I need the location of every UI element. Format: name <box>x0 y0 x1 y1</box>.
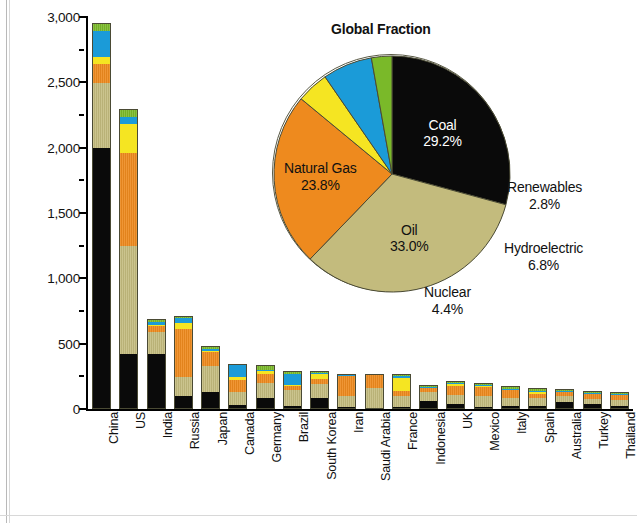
x-axis-tick-labels: ChinaUSIndiaRussiaJapanCanadaGermanyBraz… <box>88 412 633 512</box>
bar-spain[interactable] <box>528 388 547 409</box>
x-tick-label: China <box>107 412 121 444</box>
y-tick-major <box>79 212 86 214</box>
page-frame-left-line <box>6 0 7 523</box>
bar-iran[interactable] <box>337 374 356 409</box>
bar-uk[interactable] <box>446 381 465 409</box>
bar-segment-natural-gas <box>338 376 355 396</box>
x-tick-label: Australia <box>570 412 584 459</box>
bar-segment-coal <box>556 402 573 408</box>
bar-brazil[interactable] <box>283 371 302 409</box>
x-tick-label: Thailand <box>624 412 637 459</box>
bar-segment-natural-gas <box>175 329 192 377</box>
bar-segment-hydroelectric <box>93 31 110 58</box>
bar-segment-coal <box>202 392 219 408</box>
y-tick-minor <box>79 310 84 312</box>
y-tick-major <box>79 277 86 279</box>
x-tick-label: US <box>134 412 148 429</box>
bar-segment-hydroelectric <box>120 117 137 125</box>
bar-germany[interactable] <box>256 365 275 409</box>
bar-segment-oil <box>311 384 328 398</box>
y-tick-major <box>79 343 86 345</box>
bar-segment-nuclear <box>120 124 137 153</box>
bar-south-korea[interactable] <box>310 371 329 409</box>
pie-label-renewables: Renewables2.8% <box>507 179 582 212</box>
bar-segment-natural-gas <box>366 375 383 388</box>
pie-label-nuclear: Nuclear4.4% <box>424 284 471 317</box>
bar-turkey[interactable] <box>583 391 602 409</box>
x-tick-label: Russia <box>188 412 202 449</box>
x-tick-label: Indonesia <box>434 412 448 465</box>
bar-segment-coal <box>311 398 328 408</box>
y-tick-label: 1,000 <box>47 271 80 286</box>
bar-segment-coal <box>611 406 628 408</box>
x-tick-label: Germany <box>270 412 284 462</box>
bar-segment-natural-gas <box>202 352 219 366</box>
bar-india[interactable] <box>147 319 166 409</box>
bar-segment-coal <box>284 406 301 408</box>
bar-segment-oil <box>257 383 274 397</box>
bar-segment-nuclear <box>393 378 410 391</box>
bar-australia[interactable] <box>555 389 574 409</box>
bar-segment-oil <box>447 395 464 404</box>
bar-segment-oil <box>120 246 137 354</box>
y-tick-label: 0 <box>73 402 80 417</box>
bar-segment-oil <box>420 392 437 401</box>
pie-label-natural-gas: Natural Gas23.8% <box>284 160 357 193</box>
bar-russia[interactable] <box>174 316 193 409</box>
bar-segment-natural-gas <box>120 153 137 246</box>
y-tick-major <box>79 81 86 83</box>
bar-france[interactable] <box>392 374 411 409</box>
bar-segment-oil <box>338 396 355 407</box>
bar-segment-coal <box>447 404 464 408</box>
bar-segment-natural-gas <box>447 386 464 395</box>
bar-segment-oil <box>502 398 519 406</box>
bar-segment-coal <box>502 406 519 408</box>
bar-thailand[interactable] <box>610 392 629 409</box>
x-tick-label: UK <box>461 412 475 429</box>
bar-segment-hydroelectric <box>284 374 301 386</box>
bar-segment-natural-gas <box>475 387 492 396</box>
x-tick-label: Iran <box>352 412 366 433</box>
x-tick-label: Spain <box>543 412 557 443</box>
page-frame-left-line-2 <box>9 0 10 523</box>
bar-segment-renewables <box>93 24 110 31</box>
y-tick-minor <box>79 245 84 247</box>
y-tick-minor <box>79 49 84 51</box>
y-tick-label: 500 <box>58 336 80 351</box>
x-axis-line <box>86 409 633 411</box>
bar-segment-coal <box>420 401 437 408</box>
bar-segment-coal <box>148 354 165 408</box>
bar-saudi-arabia[interactable] <box>365 374 384 409</box>
x-tick-label: Brazil <box>297 412 311 442</box>
bar-segment-coal <box>93 148 110 408</box>
bar-segment-oil <box>475 396 492 407</box>
y-tick-minor <box>79 114 84 116</box>
x-tick-label: South Korea <box>325 412 339 480</box>
figure-root: 05001,0001,5002,0002,5003,000 E (Million… <box>0 0 637 523</box>
pie-chart-title: Global Fraction <box>331 21 431 37</box>
bar-italy[interactable] <box>501 386 520 409</box>
bar-segment-oil <box>202 366 219 392</box>
bar-china[interactable] <box>92 23 111 409</box>
x-tick-label: Mexico <box>488 412 502 451</box>
x-tick-label: Turkey <box>597 412 611 449</box>
bar-segment-coal <box>338 407 355 408</box>
bar-segment-oil <box>148 332 165 354</box>
bar-segment-natural-gas <box>502 390 519 398</box>
pie-label-oil: Oil33.0% <box>390 222 429 255</box>
page-frame-bottom-line <box>0 515 637 516</box>
y-tick-label: 1,500 <box>47 206 80 221</box>
bar-segment-oil <box>284 390 301 406</box>
y-tick-major <box>79 16 86 18</box>
bar-segment-oil <box>366 388 383 408</box>
bar-us[interactable] <box>119 109 138 409</box>
bar-segment-oil <box>529 398 546 406</box>
bar-mexico[interactable] <box>474 383 493 409</box>
bar-segment-coal <box>475 407 492 408</box>
bar-japan[interactable] <box>201 346 220 409</box>
y-tick-minor <box>79 179 84 181</box>
bar-segment-natural-gas <box>93 64 110 83</box>
bar-canada[interactable] <box>228 364 247 410</box>
y-tick-label: 2,500 <box>47 75 80 90</box>
bar-indonesia[interactable] <box>419 385 438 409</box>
